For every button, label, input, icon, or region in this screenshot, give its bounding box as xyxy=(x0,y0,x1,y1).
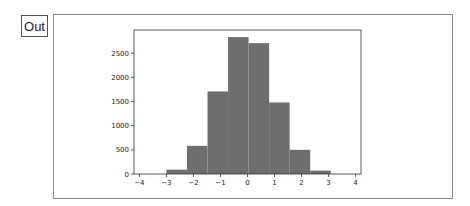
y-tick-label: 2000 xyxy=(111,74,129,82)
histogram-bar xyxy=(166,170,187,174)
x-tick-label: 0 xyxy=(245,179,249,187)
x-axis-ticks: −4−3−2−101234 xyxy=(134,174,358,187)
x-tick-label: −2 xyxy=(188,179,198,187)
x-tick-label: 3 xyxy=(326,179,330,187)
histogram-bars xyxy=(166,37,330,174)
y-tick-label: 1500 xyxy=(111,98,129,106)
y-axis-ticks: 05001000150020002500 xyxy=(111,50,134,179)
histogram-bar xyxy=(249,43,270,174)
y-tick-label: 0 xyxy=(125,171,129,179)
x-tick-label: −4 xyxy=(134,179,145,187)
histogram-bar xyxy=(269,102,290,174)
histogram-bar xyxy=(208,91,229,174)
histogram-bar xyxy=(228,37,249,174)
x-tick-label: 1 xyxy=(272,179,276,187)
y-tick-label: 500 xyxy=(116,146,129,154)
x-tick-label: −1 xyxy=(215,179,225,187)
x-tick-label: −3 xyxy=(161,179,171,187)
histogram-bar xyxy=(290,150,311,174)
y-tick-label: 2500 xyxy=(111,50,129,58)
x-tick-label: 2 xyxy=(299,179,303,187)
histogram-bar xyxy=(187,146,208,174)
histogram-chart: −4−3−2−101234 05001000150020002500 xyxy=(0,0,470,206)
histogram-bar xyxy=(310,171,331,174)
y-tick-label: 1000 xyxy=(111,122,129,130)
x-tick-label: 4 xyxy=(353,179,358,187)
